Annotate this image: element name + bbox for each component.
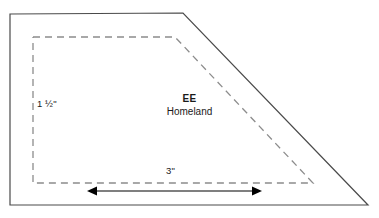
width-dimension-label: 3" (166, 166, 175, 177)
width-dimension-arrow (87, 187, 262, 196)
arrow-head-left (87, 187, 97, 196)
block-code-label: EE (0, 93, 379, 105)
diagram-canvas: 1 ½" 3" EE Homeland (0, 0, 379, 218)
arrow-head-right (252, 187, 262, 196)
block-name-label: Homeland (0, 106, 379, 118)
